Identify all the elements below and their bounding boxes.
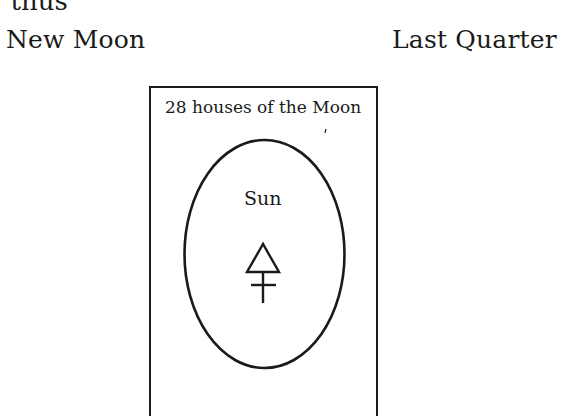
sulphur-symbol-icon — [247, 244, 279, 303]
sun-ellipse — [185, 140, 345, 368]
sun-label: Sun — [244, 187, 282, 209]
ink-mark — [325, 129, 326, 133]
